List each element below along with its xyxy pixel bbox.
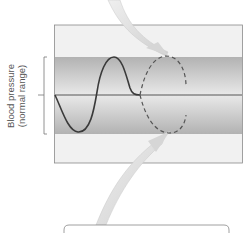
- normal-range-band-lower: [55, 95, 242, 134]
- label-box: [64, 225, 229, 233]
- normal-range-band-upper: [55, 57, 242, 95]
- range-bracket: [38, 57, 47, 134]
- blood-pressure-diagram: Blood pressure (normal range): [0, 0, 246, 233]
